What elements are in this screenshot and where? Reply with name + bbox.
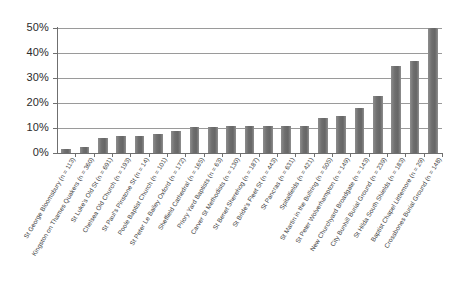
bar — [373, 96, 383, 154]
bar — [135, 136, 145, 153]
bar — [428, 28, 438, 153]
bar — [318, 118, 328, 153]
bar — [208, 127, 218, 153]
bar — [116, 136, 126, 153]
bar-chart: 0%10%20%30%40%50% St George Bloomsbury (… — [0, 0, 450, 301]
x-axis-tick-label: St Pancras (n = 631) — [259, 156, 296, 211]
bar — [245, 126, 255, 154]
y-axis-tick-label: 50% — [1, 22, 49, 33]
bar — [300, 126, 310, 154]
y-axis-tick-label: 20% — [1, 97, 49, 108]
bar — [281, 126, 291, 154]
bar — [263, 126, 273, 154]
y-axis-line — [57, 27, 58, 154]
y-axis-tick-label: 40% — [1, 47, 49, 58]
x-axis-tick-label: Spitalfields (n = 421) — [277, 156, 314, 211]
y-axis-tick: 50% — [1, 28, 53, 29]
bar — [190, 127, 200, 153]
y-axis-tick-label: 30% — [1, 72, 49, 83]
y-axis-tick: 10% — [1, 128, 53, 129]
bars-layer — [57, 28, 442, 153]
x-axis-labels: St George Bloomsbury (n = 113)Kingston o… — [0, 153, 450, 301]
bar — [391, 66, 401, 154]
bar — [153, 134, 163, 153]
bar — [226, 126, 236, 154]
bar — [410, 61, 420, 154]
y-axis-tick-label: 10% — [1, 122, 49, 133]
bar — [336, 116, 346, 154]
bar — [355, 108, 365, 153]
y-axis-tick: 30% — [1, 78, 53, 79]
bar — [171, 131, 181, 153]
bar — [98, 138, 108, 153]
y-axis-tick: 40% — [1, 53, 53, 54]
y-axis-tick: 20% — [1, 103, 53, 104]
